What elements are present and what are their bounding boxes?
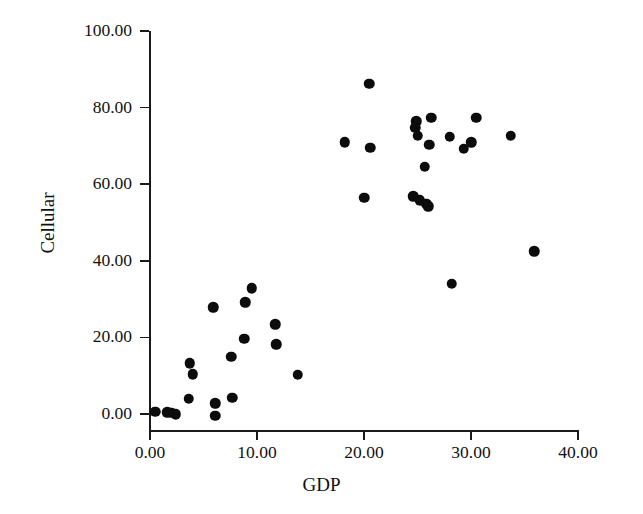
data-point <box>270 319 281 330</box>
y-tick-mark <box>140 260 149 262</box>
y-tick-label: 60.00 <box>93 175 132 193</box>
data-point <box>240 297 251 308</box>
data-point <box>227 393 238 404</box>
data-point <box>412 130 423 141</box>
x-tick-mark <box>470 431 472 440</box>
data-point <box>410 122 421 133</box>
y-axis-title: Cellular <box>37 143 59 303</box>
data-point <box>365 143 376 154</box>
y-axis-line <box>149 31 151 431</box>
data-point <box>423 201 434 212</box>
data-point <box>292 370 303 381</box>
data-point <box>414 195 425 206</box>
data-point <box>529 246 540 257</box>
data-point <box>162 407 173 418</box>
data-point <box>226 351 237 362</box>
y-tick-label: 40.00 <box>93 252 132 270</box>
y-tick-label: 20.00 <box>93 328 132 346</box>
data-point <box>411 116 422 127</box>
x-tick-mark <box>577 431 579 440</box>
y-tick-mark <box>140 107 149 109</box>
x-tick-label: 10.00 <box>237 444 276 462</box>
x-tick-label: 30.00 <box>451 444 490 462</box>
data-point <box>166 408 177 419</box>
x-tick-label: 0.00 <box>135 444 166 462</box>
data-point <box>466 137 477 148</box>
y-tick-label: 0.00 <box>101 405 132 423</box>
data-point <box>188 369 199 380</box>
data-point <box>210 411 221 422</box>
data-point <box>426 113 437 124</box>
data-point <box>359 192 370 203</box>
y-tick-label: 100.00 <box>84 22 132 40</box>
data-point <box>183 393 194 404</box>
data-point <box>184 358 195 369</box>
data-point <box>271 339 282 350</box>
y-tick-mark <box>140 337 149 339</box>
y-tick-mark <box>140 413 149 415</box>
x-tick-mark <box>149 431 151 440</box>
data-point <box>364 79 375 90</box>
data-point <box>505 131 516 142</box>
data-point <box>150 406 161 417</box>
data-point <box>420 161 431 172</box>
data-point <box>444 131 455 142</box>
data-point <box>421 198 432 209</box>
data-point <box>246 283 257 294</box>
data-point <box>424 140 435 151</box>
scatter-plot-figure: 0.0020.0040.0060.0080.00100.00 0.0010.00… <box>0 0 643 514</box>
data-point <box>208 302 219 313</box>
data-point <box>239 334 250 345</box>
data-point <box>471 112 482 123</box>
x-tick-mark <box>256 431 258 440</box>
data-point <box>339 137 350 148</box>
y-tick-mark <box>140 183 149 185</box>
x-tick-label: 40.00 <box>558 444 597 462</box>
y-tick-mark <box>140 30 149 32</box>
data-point <box>458 144 469 155</box>
data-point <box>446 279 457 290</box>
x-axis-title: GDP <box>0 474 643 496</box>
y-tick-label: 80.00 <box>93 99 132 117</box>
data-point <box>170 409 181 420</box>
data-point <box>210 398 221 409</box>
x-tick-mark <box>363 431 365 440</box>
x-tick-label: 20.00 <box>344 444 383 462</box>
data-point <box>408 191 419 202</box>
